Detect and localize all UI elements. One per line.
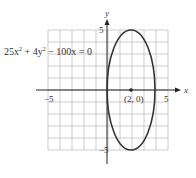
center-point-label: (2, 0) — [124, 94, 144, 104]
y-axis-arrow-icon — [105, 19, 110, 25]
x-tick-label: −5 — [44, 94, 54, 104]
ellipse-chart: x y −555−5 (2, 0) 25x2 + 4y2 − 100x = 0 — [0, 0, 196, 178]
equation-part: 25x — [4, 46, 19, 57]
y-axis-label: y — [104, 8, 109, 18]
y-tick-label: 5 — [99, 25, 104, 35]
x-axis-label: x — [183, 85, 188, 95]
x-tick-label: 5 — [164, 94, 169, 104]
equation-part: + 4y — [22, 46, 43, 57]
center-point — [129, 88, 133, 92]
x-axis-arrow-icon — [175, 88, 181, 93]
y-tick-label: −5 — [99, 145, 109, 155]
axes: x y — [36, 8, 188, 164]
equation-label: 25x2 + 4y2 − 100x = 0 — [4, 46, 92, 57]
equation-part: − 100x = 0 — [46, 46, 92, 57]
points: (2, 0) — [124, 88, 144, 104]
